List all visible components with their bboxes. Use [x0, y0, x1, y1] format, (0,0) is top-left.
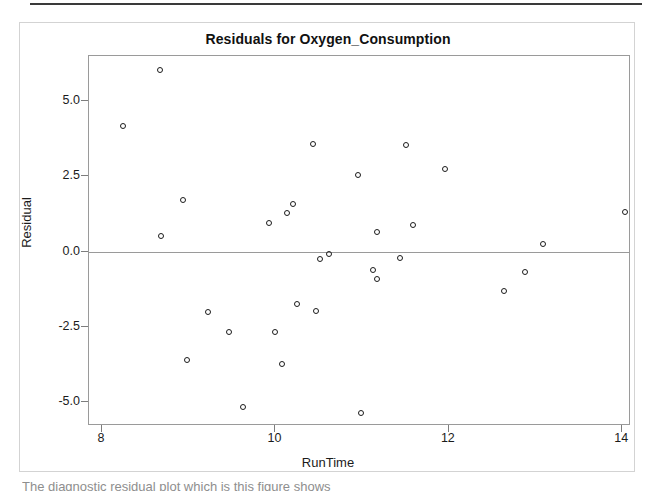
y-axis-title: Residual: [19, 183, 34, 263]
data-point: [290, 201, 296, 207]
data-point: [622, 209, 628, 215]
data-point: [370, 267, 376, 273]
x-tick-label: 8: [98, 431, 105, 445]
data-point: [158, 233, 164, 239]
data-point: [410, 222, 416, 228]
data-point: [374, 229, 380, 235]
y-tick-mark: [81, 401, 88, 402]
data-point: [403, 142, 409, 148]
x-tick-mark: [448, 425, 449, 432]
x-tick-mark: [274, 425, 275, 432]
data-point: [226, 329, 232, 335]
data-point: [540, 241, 546, 247]
data-point: [358, 410, 364, 416]
y-tick-label: 5.0: [63, 93, 80, 107]
data-point: [310, 141, 316, 147]
data-point: [157, 67, 163, 73]
y-axis: 5.02.50.0-2.5-5.0: [40, 0, 80, 491]
data-point: [317, 256, 323, 262]
y-tick-label: 0.0: [63, 244, 80, 258]
data-point: [272, 329, 278, 335]
data-point: [180, 197, 186, 203]
data-point: [184, 357, 190, 363]
page-top-rule: [30, 3, 642, 5]
y-tick-label: -2.5: [58, 319, 80, 333]
data-point: [120, 123, 126, 129]
data-point: [442, 166, 448, 172]
x-tick-label: 10: [267, 431, 281, 445]
x-tick-label: 14: [614, 431, 628, 445]
y-tick-mark: [81, 100, 88, 101]
data-point: [266, 220, 272, 226]
y-tick-mark: [81, 251, 88, 252]
y-tick-mark: [81, 326, 88, 327]
data-point: [313, 308, 319, 314]
data-point: [294, 301, 300, 307]
y-tick-label: 2.5: [63, 168, 80, 182]
scatter-series: [89, 56, 629, 424]
data-point: [355, 172, 361, 178]
y-tick-mark: [81, 175, 88, 176]
data-point: [279, 361, 285, 367]
data-point: [522, 269, 528, 275]
data-point: [374, 276, 380, 282]
x-tick-label: 12: [441, 431, 455, 445]
plot-area: [88, 55, 630, 425]
page-footer-text: The diagnostic residual plot which is th…: [22, 479, 642, 491]
data-point: [240, 404, 246, 410]
y-tick-label: -5.0: [58, 394, 80, 408]
chart-title: Residuals for Oxygen_Consumption: [0, 31, 656, 47]
x-tick-mark: [101, 425, 102, 432]
x-tick-mark: [621, 425, 622, 432]
data-point: [501, 288, 507, 294]
data-point: [397, 255, 403, 261]
data-point: [284, 210, 290, 216]
x-axis-title: RunTime: [0, 455, 656, 470]
data-point: [205, 309, 211, 315]
data-point: [326, 251, 332, 257]
